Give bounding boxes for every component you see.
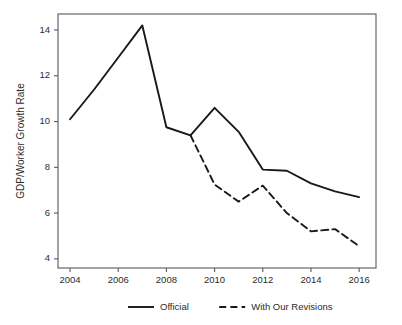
- legend-label: Official: [160, 301, 189, 312]
- legend-label: With Our Revisions: [251, 301, 333, 312]
- x-axis-ticks: 2004200620082010201220142016: [59, 268, 369, 285]
- x-tick-label: 2016: [349, 274, 370, 285]
- x-tick-label: 2014: [300, 274, 321, 285]
- y-axis-title: GDP/Worker Growth Rate: [15, 83, 26, 199]
- y-axis-ticks: 468101214: [39, 24, 58, 264]
- y-tick-label: 10: [39, 115, 50, 126]
- y-tick-label: 8: [45, 161, 50, 172]
- x-tick-label: 2010: [204, 274, 225, 285]
- x-tick-label: 2012: [252, 274, 273, 285]
- series-group: [70, 25, 359, 246]
- chart-figure: 468101214 2004200620082010201220142016 G…: [0, 0, 402, 325]
- y-tick-label: 4: [45, 252, 50, 263]
- x-tick-label: 2004: [59, 274, 80, 285]
- chart-legend: OfficialWith Our Revisions: [128, 301, 333, 312]
- line-chart: 468101214 2004200620082010201220142016 G…: [0, 0, 402, 325]
- y-tick-label: 6: [45, 207, 50, 218]
- y-tick-label: 14: [39, 24, 50, 35]
- series-line-official: [70, 25, 359, 197]
- x-tick-label: 2006: [108, 274, 129, 285]
- x-tick-label: 2008: [156, 274, 177, 285]
- y-tick-label: 12: [39, 69, 50, 80]
